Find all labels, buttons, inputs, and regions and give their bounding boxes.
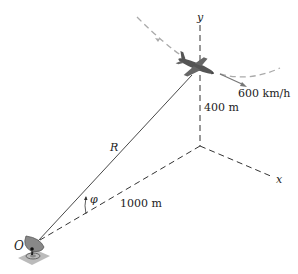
height-label: 400 m: [204, 102, 239, 113]
flight-path: [137, 17, 185, 58]
angle-label: φ: [90, 194, 98, 205]
y-axis-label: y: [197, 12, 203, 23]
ground-distance-line: [40, 146, 200, 240]
range-line-R: [38, 75, 192, 241]
diagram-graphics: [0, 0, 298, 274]
speed-label: 600 km/h: [238, 88, 290, 99]
origin-label: O: [14, 240, 24, 252]
distance-label: 1000 m: [120, 198, 162, 209]
angle-arrow-icon: [84, 196, 88, 200]
radar-tracking-diagram: y x 600 km/h 400 m R φ 1000 m O: [0, 0, 298, 274]
flight-path-continuation: [220, 68, 280, 77]
aircraft-icon: [173, 48, 219, 85]
range-label: R: [110, 142, 118, 153]
x-axis: [200, 146, 273, 177]
x-axis-label: x: [276, 174, 282, 185]
velocity-vector: [220, 74, 244, 85]
